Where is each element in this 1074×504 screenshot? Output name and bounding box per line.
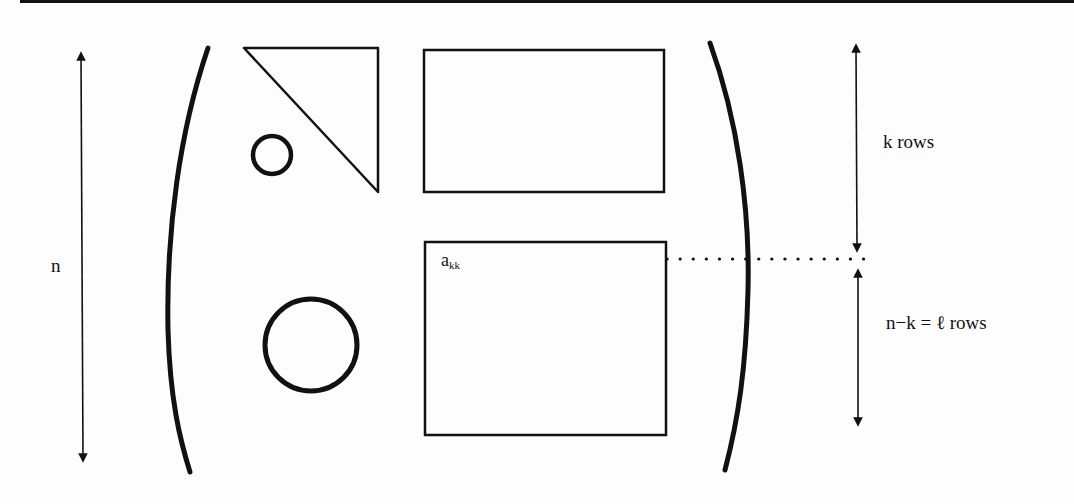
small-circle-shape xyxy=(253,136,291,174)
upper-right-block xyxy=(424,50,664,192)
left-parenthesis xyxy=(168,48,208,472)
k-rows-label: k rows xyxy=(883,132,934,151)
n-dimension-arrow xyxy=(81,56,83,458)
right-parenthesis xyxy=(710,43,748,470)
large-circle-shape xyxy=(265,299,357,391)
n-label: n xyxy=(51,256,61,275)
lower-right-block xyxy=(425,242,666,435)
pivot-base: a xyxy=(441,250,449,270)
k-rows-arrow xyxy=(856,48,857,248)
l-rows-label: n−k = ℓ rows xyxy=(886,313,987,332)
pivot-label: akk xyxy=(441,251,460,271)
matrix-diagram xyxy=(0,0,1074,504)
pivot-subscript: kk xyxy=(449,259,460,271)
